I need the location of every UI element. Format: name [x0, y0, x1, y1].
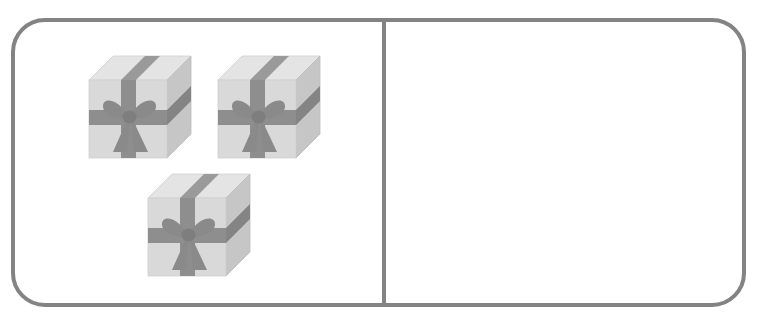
vertical-divider: [382, 20, 386, 305]
gift-box-2[interactable]: [214, 52, 324, 162]
gift-box-3[interactable]: [144, 170, 254, 280]
right-panel[interactable]: [386, 20, 744, 305]
gift-box-icon: [218, 56, 320, 158]
worksheet-canvas: [0, 0, 761, 327]
gift-box-icon: [148, 174, 250, 276]
gift-box-1[interactable]: [85, 52, 195, 162]
left-panel[interactable]: [13, 20, 382, 305]
gift-box-icon: [89, 56, 191, 158]
